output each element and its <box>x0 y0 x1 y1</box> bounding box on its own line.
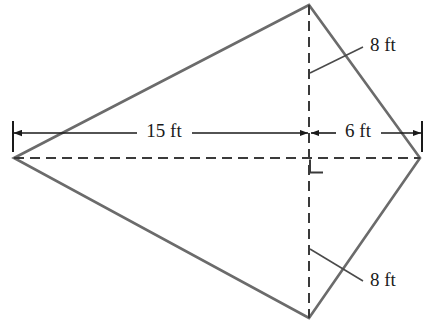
dimension-label-upper-8ft: 8 ft <box>370 34 397 55</box>
right-angle-marker <box>310 160 323 173</box>
figure-canvas: 15 ft 6 ft 8 ft 8 ft <box>0 0 428 328</box>
kite-outline <box>14 5 420 318</box>
dimension-label-15ft: 15 ft <box>146 120 182 141</box>
geometry-figure: 15 ft 6 ft 8 ft 8 ft <box>0 0 428 328</box>
dimension-label-lower-8ft: 8 ft <box>370 269 397 290</box>
dimension-label-6ft: 6 ft <box>345 120 372 141</box>
